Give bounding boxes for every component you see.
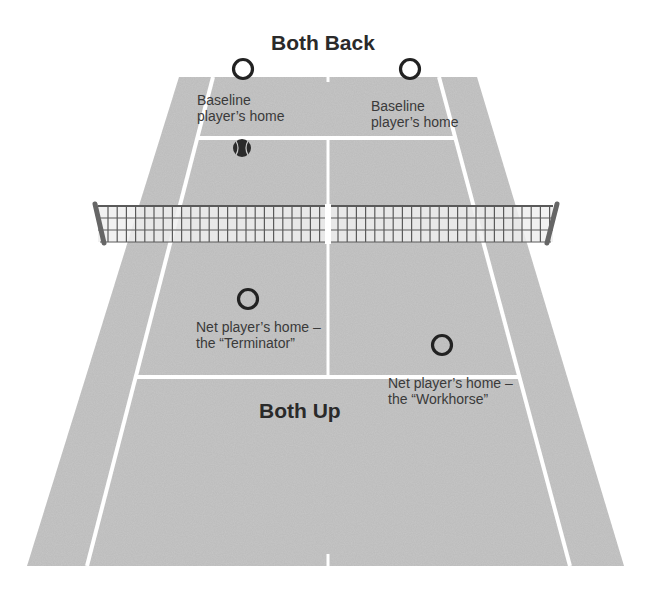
net [95,204,557,244]
label-line: Net player’s home – [388,375,513,391]
baseline-left-position-icon [234,60,253,79]
label-line: Net player’s home – [196,319,321,335]
label-line: Baseline [371,98,458,114]
tennis-court-diagram [0,0,664,603]
title-both-up: Both Up [259,400,341,422]
baseline-right-position-icon [401,60,420,79]
label-line: the “Workhorse” [388,391,513,407]
label-line: Baseline [197,92,284,108]
court-surface [27,77,624,566]
label-baseline-right: Baseline player’s home [371,98,458,130]
tennis-ball-icon [233,139,251,157]
label-line: player’s home [197,108,284,124]
label-net-right: Net player’s home – the “Workhorse” [388,375,513,407]
label-line: player’s home [371,114,458,130]
label-line: the “Terminator” [196,335,321,351]
label-net-left: Net player’s home – the “Terminator” [196,319,321,351]
label-baseline-left: Baseline player’s home [197,92,284,124]
net-center-strap [325,204,331,244]
title-both-back: Both Back [271,32,375,54]
